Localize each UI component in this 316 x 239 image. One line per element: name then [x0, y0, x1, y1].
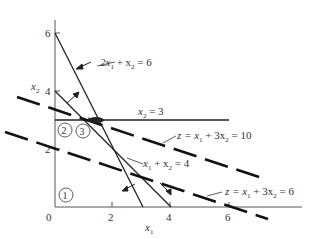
objective-line-z6: [5, 132, 268, 219]
y-axis-label: x2: [30, 80, 40, 95]
tick-label-x4: 4: [166, 211, 172, 223]
region-label-3: 3: [76, 124, 90, 138]
svg-text:2: 2: [62, 125, 67, 136]
tick-label-x2: 2: [108, 211, 114, 223]
tick-label-x6: 6: [225, 211, 231, 223]
label-objective-z6: z = x1 + 3x2 = 6: [224, 185, 295, 200]
svg-text:3: 3: [80, 126, 85, 137]
tick-label-y4: 4: [45, 85, 51, 97]
region-label-1: 1: [59, 188, 73, 202]
label-constraint-2x1-x2-6: 2x1 + x2 = 6: [100, 56, 152, 71]
tick-label-y6: 6: [45, 27, 51, 39]
lp-graph: 6 4 2 0 2 4 6 x2 x1 2x1 + x2 = 6 x2 = 3 …: [0, 0, 316, 239]
leader-eq2: [127, 158, 143, 164]
direction-arrow-constraint-1: [76, 62, 135, 191]
leader-z6: [207, 192, 222, 196]
label-constraint-x2-3: x2 = 3: [137, 105, 164, 120]
label-objective-z10: z = x1 + 3x2 = 10: [176, 129, 252, 144]
region-label-2: 2: [58, 123, 72, 137]
leader-z10: [163, 136, 176, 143]
label-constraint-x1-x2-4: x1 + x2 = 4: [142, 157, 190, 172]
tick-label-x0: 0: [46, 211, 52, 223]
svg-text:1: 1: [63, 190, 68, 201]
x-axis-label: x1: [144, 221, 154, 236]
